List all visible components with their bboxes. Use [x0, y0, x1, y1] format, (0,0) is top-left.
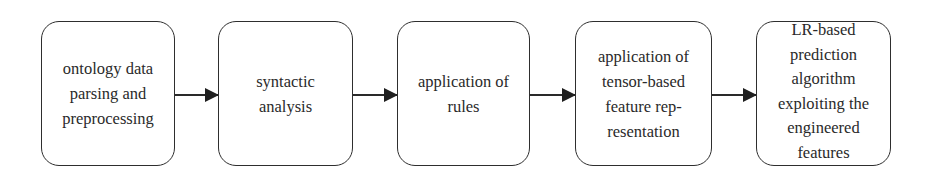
arrow-2-to-3 [353, 94, 397, 96]
arrow-4-to-5 [712, 94, 756, 96]
step-tensor-feature-representation: application of tensor-based feature rep-… [575, 21, 712, 166]
step-label: ontology data parsing and preprocessing [58, 56, 158, 131]
arrow-3-to-4 [530, 94, 575, 96]
arrow-head-icon [205, 88, 219, 102]
step-label: LR-based prediction algorithm exploiting… [774, 18, 873, 165]
step-label: application of rules [414, 69, 513, 119]
arrow-head-icon [562, 88, 576, 102]
step-lr-prediction-algorithm: LR-based prediction algorithm exploiting… [756, 21, 891, 166]
step-application-of-rules: application of rules [397, 21, 530, 166]
step-ontology-data-parsing: ontology data parsing and preprocessing [41, 21, 175, 166]
arrow-1-to-2 [175, 94, 218, 96]
step-syntactic-analysis: syntactic analysis [218, 21, 353, 166]
step-label: syntactic analysis [252, 69, 319, 119]
arrow-head-icon [743, 88, 757, 102]
step-label: application of tensor-based feature rep-… [594, 44, 693, 144]
arrow-head-icon [384, 88, 398, 102]
